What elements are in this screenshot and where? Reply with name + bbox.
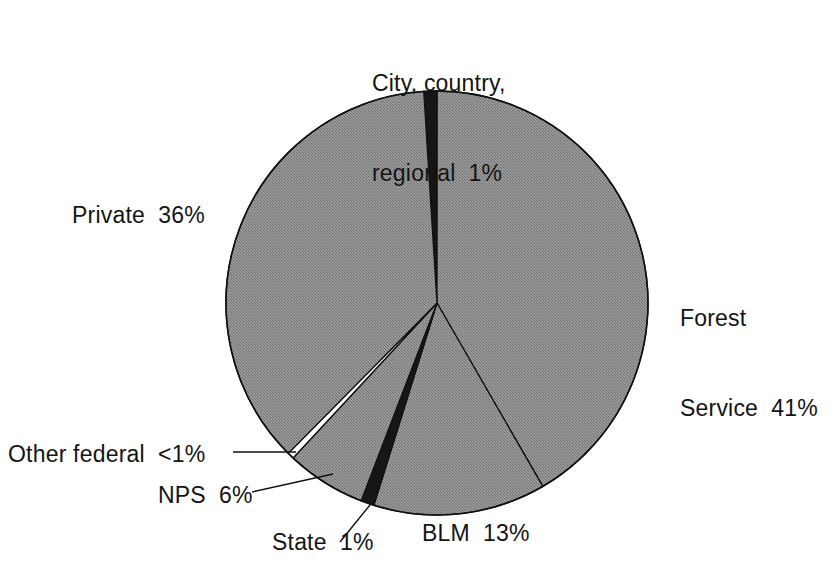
pie-chart: City, country, regional 1% Private 36% F…	[0, 0, 834, 586]
slice-label-nps: NPS 6%	[158, 481, 253, 509]
slice-label-private: Private 36%	[72, 201, 205, 229]
slice-label-state: State 1%	[272, 528, 374, 556]
slice-label-other-federal: Other federal <1%	[8, 440, 205, 468]
slice-label-forest-line-2: Service 41%	[680, 393, 818, 423]
slice-label-forest-line-1: Forest	[680, 303, 818, 333]
leader-line-nps	[252, 474, 333, 492]
slice-label-city-line-2: regional 1%	[372, 158, 506, 188]
slice-label-forest-service: Forest Service 41%	[680, 243, 818, 483]
slice-label-blm: BLM 13%	[422, 519, 530, 547]
slice-label-city-line-1: City, country,	[372, 68, 506, 98]
slice-label-city-country-regional: City, country, regional 1%	[372, 8, 506, 248]
